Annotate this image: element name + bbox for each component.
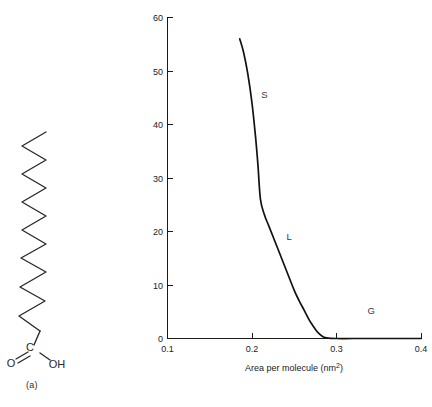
x-tick-label-0.3: 0.3: [330, 344, 343, 354]
x-tick-label-0.4: 0.4: [415, 344, 428, 354]
y-tick-label-50: 50: [153, 67, 163, 77]
y-tick-label-20: 20: [153, 227, 163, 237]
y-tick-label-0: 0: [158, 334, 163, 344]
isotherm-plot: 60 50 40 30 20 10 0 0.1 0.2: [150, 0, 432, 375]
x-axis-title-suffix: ): [340, 363, 343, 373]
y-axis-ticks: 60 50 40 30 20 10 0: [153, 13, 173, 344]
x-tick-label-0.2: 0.2: [246, 344, 259, 354]
molecule-diagram: C O OH: [0, 0, 150, 375]
phase-label-gas: G: [367, 305, 374, 316]
y-tick-label-10: 10: [153, 281, 163, 291]
alpha-carbon-to-carboxyl-bond: [34, 331, 40, 345]
phase-label-liquid: L: [287, 231, 292, 242]
y-tick-label-60: 60: [153, 13, 163, 23]
x-axis-ticks: 0.1 0.2 0.3 0.4: [161, 333, 427, 354]
hydrocarbon-chain-bonds: [19, 132, 46, 331]
x-axis-title-main: Area per molecule (nm: [245, 363, 336, 373]
x-axis-title: Area per molecule (nm2): [245, 362, 343, 373]
hydroxyl-group-label: OH: [49, 358, 66, 370]
carboxyl-carbon-label: C: [26, 341, 34, 353]
x-tick-label-0.1: 0.1: [161, 344, 174, 354]
isotherm-curve: [240, 39, 421, 339]
carbonyl-oxygen-label: O: [7, 357, 16, 369]
y-tick-label-40: 40: [153, 120, 163, 130]
figure-root: C O OH (a) 60 50 40 30 20: [0, 0, 432, 407]
panel-a-caption: (a): [26, 380, 38, 390]
panel-a-molecular-structure: C O OH (a): [0, 0, 150, 407]
y-tick-label-30: 30: [153, 174, 163, 184]
panel-b-isotherm-chart: 60 50 40 30 20 10 0 0.1 0.2: [150, 0, 432, 407]
phase-label-solid: S: [261, 89, 267, 100]
